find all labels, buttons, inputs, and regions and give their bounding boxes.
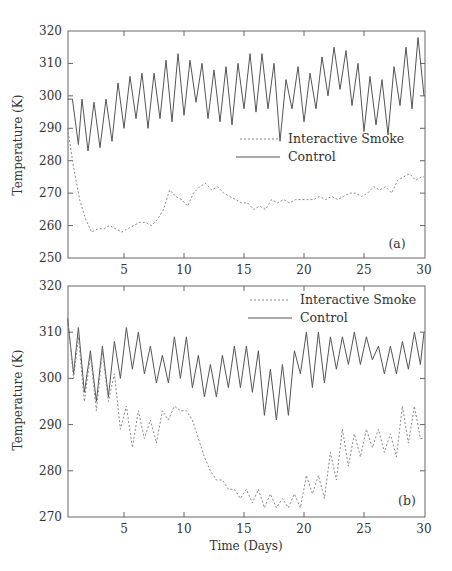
x-tick-label: 30 [416,522,431,536]
x-tick-label: 10 [176,263,191,277]
legend-label-control: Control [288,149,336,164]
panel-tag-a: (a) [388,236,405,251]
plot-area-b [68,318,424,508]
x-axis-b: 51015202530 [120,286,431,536]
legend-b: Interactive Smoke Control [248,292,416,325]
y-tick-label: 310 [39,56,62,70]
y-tick-label: 270 [39,510,62,524]
x-tick-label: 20 [296,263,311,277]
panel-tag-b: (b) [398,493,416,508]
y-tick-label: 250 [39,251,62,265]
figure: 250260270280290300310320 51015202530 Tem… [0,0,452,571]
series-control [68,318,424,420]
y-tick-label: 310 [39,325,62,339]
panel-b: 270280290300310320 51015202530 Temperatu… [11,279,432,553]
x-tick-label: 25 [356,522,371,536]
x-tick-label: 15 [236,263,251,277]
y-axis-b: 270280290300310320 [39,279,425,524]
x-tick-label: 30 [416,263,431,277]
plot-frame-b [68,286,425,517]
y-tick-label: 300 [39,371,62,385]
y-tick-label: 290 [39,121,62,135]
y-tick-label: 300 [39,89,62,103]
x-tick-label: 15 [236,522,251,536]
y-tick-label: 280 [39,464,62,478]
y-tick-label: 260 [39,219,62,233]
series-interactive-smoke [68,318,424,508]
y-tick-label: 270 [39,186,62,200]
x-axis-label: Time (Days) [209,539,282,553]
legend-label-smoke: Interactive Smoke [288,131,404,146]
y-axis-label-b: Temperature (K) [11,350,25,451]
x-tick-label: 20 [296,522,311,536]
x-tick-label: 5 [120,263,128,277]
x-tick-label: 5 [120,522,128,536]
y-tick-label: 280 [39,154,62,168]
y-axis-label-a: Temperature (K) [11,95,25,196]
legend-label-smoke-b: Interactive Smoke [300,292,416,307]
y-tick-label: 320 [39,24,62,38]
legend-label-control-b: Control [300,310,348,325]
legend-a: Interactive Smoke Control [236,131,404,164]
panel-a: 250260270280290300310320 51015202530 Tem… [11,24,432,277]
y-tick-label: 290 [39,418,62,432]
x-tick-label: 10 [176,522,191,536]
y-tick-label: 320 [39,279,62,293]
x-tick-label: 25 [356,263,371,277]
